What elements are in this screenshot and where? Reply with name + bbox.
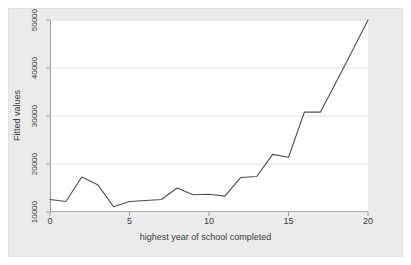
x-tick-label: 20 (363, 216, 373, 226)
x-tick-label: 0 (47, 216, 52, 226)
y-tick-label: 50000 (30, 9, 39, 31)
y-axis-title-text: Fitted values (12, 90, 22, 141)
x-axis-title-text: highest year of school completed (140, 232, 272, 242)
x-axis-title: highest year of school completed (0, 232, 411, 242)
y-tick-label: 30000 (30, 105, 39, 127)
x-tick-label: 10 (204, 216, 214, 226)
x-tick-label: 5 (127, 216, 132, 226)
y-tick-label: 40000 (30, 57, 39, 79)
y-tick-label: 10000 (30, 201, 39, 223)
x-tick-label: 15 (283, 216, 293, 226)
chart-figure: 1000020000300004000050000 05101520 Fitte… (0, 0, 411, 265)
y-tick-label: 20000 (30, 153, 39, 175)
plot-region (50, 20, 368, 212)
y-axis-title: Fitted values (12, 0, 22, 232)
